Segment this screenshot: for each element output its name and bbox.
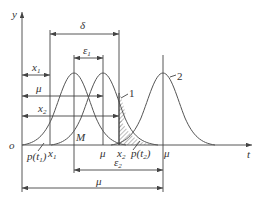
epsilon1-label: ε1 — [83, 44, 91, 58]
reference-lines — [50, 30, 163, 192]
x2-mark: x2 — [116, 147, 126, 161]
y-axis-label: y — [11, 8, 17, 20]
curve2-label: 2 — [177, 70, 183, 82]
p-t1-label: p(t1) — [26, 150, 47, 164]
curves — [22, 73, 215, 145]
curve1-label: 1 — [129, 87, 135, 99]
x2-dim-label: x2 — [37, 102, 47, 116]
origin-label: o — [9, 139, 15, 151]
dimensions: δ ε1 x1 μ x2 ε2 μ — [22, 19, 163, 188]
t-axis-label: t — [247, 148, 251, 160]
curve2-leader — [170, 75, 176, 77]
curve-labels: 1 2 — [121, 70, 183, 99]
m-mark: M — [75, 131, 86, 143]
x1-mark: x1 — [47, 147, 56, 161]
delta-label: δ — [80, 19, 86, 31]
mu-bottom-label: μ — [95, 175, 102, 187]
curve-1-strength — [51, 73, 158, 145]
normal-distribution-interference-diagram: y t o δ ε1 x1 μ x2 — [0, 0, 265, 204]
axis-marks: x1 M μ x2 μ p(t1) p(t2) — [26, 131, 170, 164]
curve1-leader — [121, 94, 128, 98]
mu1-mark: μ — [99, 147, 106, 159]
mu-top-label: μ — [35, 82, 42, 94]
mu2-mark: μ — [163, 147, 170, 159]
axes: y t o — [9, 8, 252, 192]
p-t2-label: p(t2) — [130, 147, 151, 161]
x1-dim-label: x1 — [31, 61, 40, 75]
